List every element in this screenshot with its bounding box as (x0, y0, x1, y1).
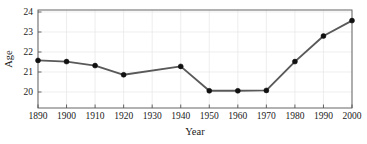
data-point-marker (64, 59, 69, 64)
x-tick-label: 1900 (57, 111, 76, 121)
data-point-marker (207, 88, 212, 93)
x-tick-label: 1960 (228, 111, 247, 121)
data-point-marker (121, 72, 126, 77)
y-tick-label: 24 (24, 7, 34, 17)
data-point-marker (93, 63, 98, 68)
data-point-marker (36, 58, 41, 63)
x-tick-label: 1930 (143, 111, 162, 121)
data-point-marker (292, 59, 297, 64)
x-tick-label: 1910 (86, 111, 105, 121)
y-tick-label: 21 (24, 67, 34, 77)
data-point-marker (321, 34, 326, 39)
line-chart-figure: 2021222324 18901900191019201930194019501… (0, 0, 367, 144)
x-tick-label: 1970 (257, 111, 276, 121)
x-tick-label: 2000 (343, 111, 362, 121)
x-tick-label: 1940 (171, 111, 190, 121)
x-tick-label: 1890 (29, 111, 48, 121)
chart-screenshot: 2021222324 18901900191019201930194019501… (0, 0, 367, 144)
x-tick-label: 1980 (285, 111, 304, 121)
x-tick-label: 1920 (114, 111, 133, 121)
x-tick-label: 1990 (314, 111, 333, 121)
y-tick-label: 20 (24, 87, 34, 97)
x-tick-label: 1950 (200, 111, 219, 121)
data-point-marker (235, 88, 240, 93)
data-point-marker (350, 18, 355, 23)
data-point-marker (178, 64, 183, 69)
y-axis-title: Age (3, 50, 14, 68)
chart-canvas: 2021222324 18901900191019201930194019501… (0, 0, 367, 144)
y-tick-label: 23 (24, 27, 34, 37)
x-axis-title: Year (185, 126, 205, 137)
data-point-marker (264, 88, 269, 93)
y-tick-label: 22 (24, 47, 34, 57)
